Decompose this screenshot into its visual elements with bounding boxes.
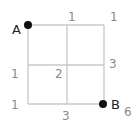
count-center: 2: [55, 68, 63, 80]
count-bottom-left: 1: [11, 99, 19, 111]
count-top-right: 1: [110, 11, 118, 23]
count-middle-right: 3: [109, 58, 117, 70]
point-b-label: B: [111, 98, 120, 111]
point-b-marker: [99, 100, 107, 108]
count-top-middle: 1: [68, 11, 76, 23]
count-bottom-middle: 3: [62, 110, 70, 122]
count-bottom-right: 6: [124, 106, 132, 118]
point-a-label: A: [12, 23, 21, 36]
point-a-marker: [24, 21, 32, 29]
count-middle-left: 1: [11, 68, 19, 80]
